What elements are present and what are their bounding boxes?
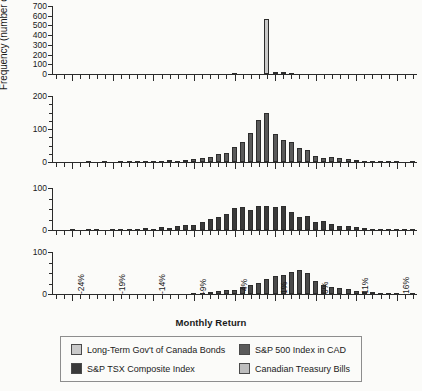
x-tick-label: 11%: [360, 278, 370, 294]
x-minor-tick: [372, 75, 373, 79]
histogram-panel-3: 0100: [0, 188, 422, 244]
x-minor-tick: [243, 75, 244, 79]
histogram-bar: [224, 214, 229, 230]
x-major-tick: [72, 231, 73, 237]
histogram-bar: [297, 148, 302, 162]
y-tick: [48, 188, 52, 189]
y-tick: [48, 252, 52, 253]
histogram-bar: [94, 229, 99, 231]
x-major-tick: [316, 75, 317, 81]
histogram-bar: [224, 153, 229, 162]
histogram-bar: [240, 142, 245, 162]
x-minor-tick: [137, 75, 138, 79]
x-minor-tick: [243, 231, 244, 235]
x-minor-tick: [372, 163, 373, 167]
y-tick-label: 200: [33, 92, 47, 101]
histogram-bar: [151, 161, 156, 163]
histogram-bar: [346, 226, 351, 230]
histogram-bar: [191, 225, 196, 230]
x-minor-tick: [186, 231, 187, 235]
histogram-bar: [232, 73, 237, 75]
y-minor-tick: [49, 146, 52, 147]
x-major-tick: [72, 75, 73, 81]
x-minor-tick: [80, 75, 81, 79]
legend-swatch-tbills: [239, 363, 250, 374]
x-minor-tick: [121, 75, 122, 79]
x-minor-tick: [64, 163, 65, 167]
x-minor-tick: [80, 163, 81, 167]
x-major-tick: [194, 163, 195, 169]
histogram-bar: [232, 208, 237, 230]
x-minor-tick: [178, 163, 179, 167]
y-minor-tick: [49, 209, 52, 210]
x-minor-tick: [299, 75, 300, 79]
x-minor-tick: [364, 163, 365, 167]
histogram-bar: [264, 19, 269, 74]
y-tick-label: 500: [33, 21, 47, 30]
legend-item-bonds[interactable]: Long-Term Gov't of Canada Bonds: [71, 344, 239, 355]
y-minor-tick: [49, 273, 52, 274]
y-tick: [48, 35, 52, 36]
x-minor-tick: [267, 75, 268, 79]
histogram-bar: [208, 157, 213, 162]
y-minor-tick: [49, 199, 52, 200]
x-minor-tick: [80, 231, 81, 235]
legend-item-tbills[interactable]: Canadian Treasury Bills: [239, 363, 350, 374]
histogram-bar: [329, 224, 334, 230]
histogram-bar: [167, 160, 172, 162]
x-minor-tick: [364, 231, 365, 235]
x-minor-tick: [413, 75, 414, 79]
x-minor-tick: [381, 163, 382, 167]
x-minor-tick: [324, 231, 325, 235]
histogram-bar: [110, 229, 115, 231]
histogram-bar: [256, 120, 261, 162]
x-minor-tick: [97, 231, 98, 235]
legend-item-tsx[interactable]: S&P TSX Composite Index: [71, 363, 239, 374]
y-minor-tick: [49, 121, 52, 122]
x-major-tick: [397, 75, 398, 81]
x-minor-tick: [121, 231, 122, 235]
x-minor-tick: [259, 75, 260, 79]
y-tick: [48, 74, 52, 75]
legend-row-1: Long-Term Gov't of Canada Bonds S&P 500 …: [61, 337, 361, 359]
x-minor-tick: [332, 75, 333, 79]
y-minor-tick: [49, 220, 52, 221]
legend-item-sp500[interactable]: S&P 500 Index in CAD: [239, 344, 346, 355]
x-major-tick: [397, 163, 398, 169]
histogram-panel-1: 0100200300400500600700: [0, 6, 422, 88]
x-minor-tick: [97, 163, 98, 167]
legend-row-2: S&P TSX Composite Index Canadian Treasur…: [61, 359, 361, 378]
x-minor-tick: [340, 231, 341, 235]
x-axis-title: Monthly Return: [0, 317, 422, 328]
histogram-bar: [337, 226, 342, 230]
histogram-bar: [183, 160, 188, 162]
x-minor-tick: [56, 231, 57, 235]
x-major-tick: [153, 75, 154, 81]
x-minor-tick: [291, 75, 292, 79]
x-minor-tick: [226, 231, 227, 235]
histogram-bar: [264, 113, 269, 162]
x-minor-tick: [308, 163, 309, 167]
x-minor-tick: [405, 231, 406, 235]
histogram-bar: [216, 217, 221, 230]
x-major-tick: [275, 231, 276, 237]
histogram-bar: [370, 161, 375, 163]
x-minor-tick: [162, 163, 163, 167]
x-minor-tick: [405, 75, 406, 79]
histogram-bar: [159, 161, 164, 163]
histogram-bar: [321, 221, 326, 230]
histogram-bar: [321, 158, 326, 162]
plot-area: 0100200300400500600700: [52, 6, 417, 74]
x-major-tick: [72, 163, 73, 169]
x-minor-tick: [364, 75, 365, 79]
x-tick-label: -14%: [157, 274, 167, 294]
histogram-bar: [273, 72, 278, 74]
x-minor-tick: [105, 75, 106, 79]
x-minor-tick: [105, 231, 106, 235]
histogram-bar: [175, 161, 180, 163]
y-minor-tick: [49, 263, 52, 264]
x-minor-tick: [178, 75, 179, 79]
histogram-bar: [70, 229, 75, 231]
x-minor-tick: [56, 163, 57, 167]
x-tick-label: 6%: [320, 282, 330, 294]
